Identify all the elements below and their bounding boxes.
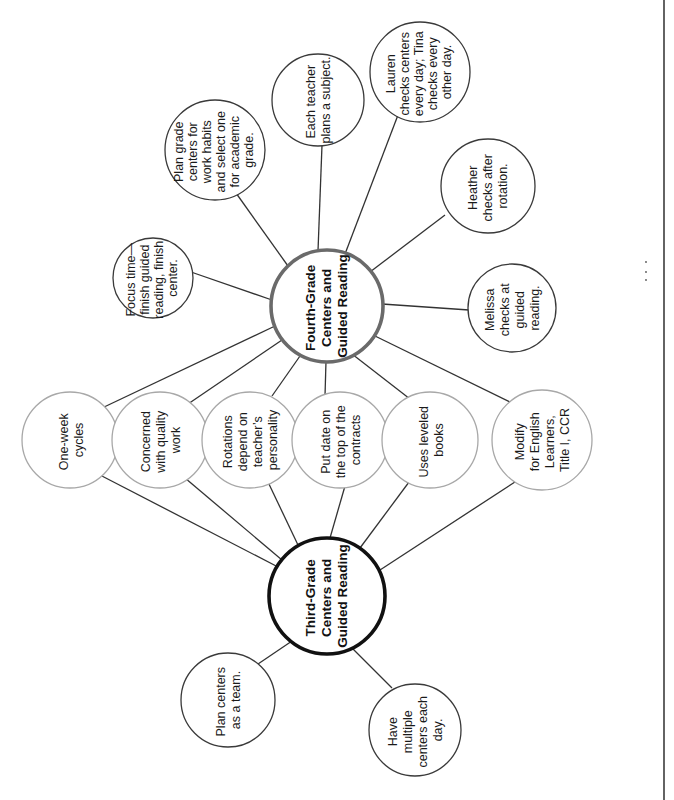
shared-node-leveled-books: Uses leveled books <box>382 392 478 488</box>
shared-node-one-week-cycles: One-week cycles <box>22 392 118 488</box>
shared-node-put-date: Put date on the top of the contracts <box>292 392 388 488</box>
fourth-node-lauren-tina: Lauren checks centers every day; Tina ch… <box>370 22 470 122</box>
third-grade-differences: Plan centers as a team. Have multiple ce… <box>181 653 461 776</box>
fourth-node-melissa: Melissa checks at guided reading. <box>468 264 556 352</box>
fourth-node-plan-grade: Plan grade centers for work habits and s… <box>165 100 265 200</box>
double-bubble-map: One-week cycles Concerned with quality w… <box>0 0 674 800</box>
svg-text:Each teacher plans a s: Each teacher plans a subject. <box>304 57 333 144</box>
fourth-node-each-teacher: Each teacher plans a subject. <box>272 54 364 146</box>
shared-node-rotations: Rotations depend on teacher’s personalit… <box>202 392 298 488</box>
third-node-multiple-centers: Have multiple centers each day. <box>369 684 461 776</box>
fourth-node-focus-time: Focus time— finish guided reading, finis… <box>113 237 193 318</box>
margin-marks <box>645 261 647 281</box>
svg-text:Third-Grade Centers and: Third-Grade Centers and Guided Reading <box>303 544 350 648</box>
svg-text:Melissa checks at: Melissa checks at guided reading. <box>483 280 542 336</box>
hub-fourth-grade: Fourth-Grade Centers and Guided Reading <box>271 250 383 362</box>
svg-text:Fourth-Grade Centers and: Fourth-Grade Centers and Guided Reading <box>303 254 350 358</box>
fourth-node-heather: Heather checks after rotation. <box>441 139 535 233</box>
hub-third-grade: Third-Grade Centers and Guided Reading <box>269 538 385 654</box>
shared-node-modify: Modify for English Learners, Title I, CC… <box>492 390 592 490</box>
svg-text:Plan centers as a team: Plan centers as a team. <box>214 664 243 737</box>
svg-text:Rotations depend on: Rotations depend on teacher’s personalit… <box>221 409 280 472</box>
third-node-plan-team: Plan centers as a team. <box>181 653 275 747</box>
shared-node-concerned-quality: Concerned with quality work <box>112 392 208 488</box>
